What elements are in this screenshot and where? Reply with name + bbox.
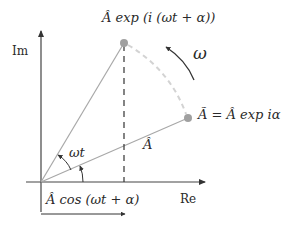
- initial-phasor-line: [41, 118, 188, 182]
- imaginary-axis-label: Im: [12, 45, 28, 57]
- magnitude-label: Â: [143, 138, 152, 151]
- angular-velocity-arrow: [166, 47, 194, 80]
- cut-off-caption: [8, 223, 11, 230]
- rotated-phasor-point: [120, 39, 128, 47]
- rotated-phasor-line: [41, 43, 124, 182]
- initial-phasor-point: [184, 114, 192, 122]
- phasor-diagram: Im Re Â exp (i (ωt + α)) Ã = Â exp iα Â …: [0, 0, 292, 230]
- initial-phasor-label: Ã = Â exp iα: [198, 108, 280, 121]
- rotated-phasor-label: Â exp (i (ωt + α)): [102, 11, 215, 24]
- real-axis-label: Re: [180, 193, 196, 205]
- angular-velocity-label: ω: [193, 45, 207, 62]
- projection-label: Â cos (ωt + α): [46, 193, 139, 206]
- angle-alpha-arc: [80, 166, 83, 182]
- angle-omega-t-label: ωt: [69, 146, 85, 159]
